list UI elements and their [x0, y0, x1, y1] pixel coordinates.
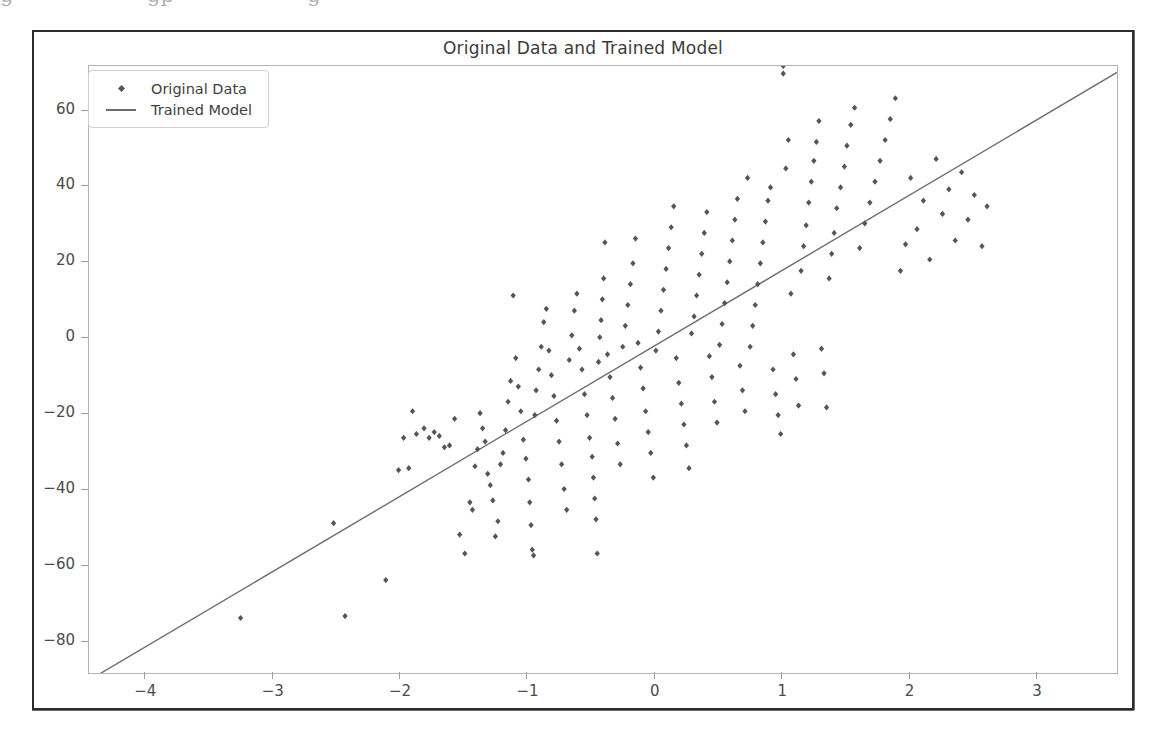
- scatter-point: [755, 281, 760, 287]
- x-tick-label: 1: [760, 682, 804, 700]
- y-tick-label: 40: [20, 175, 75, 193]
- scatter-point: [539, 344, 544, 350]
- scatter-point: [541, 319, 546, 325]
- scatter-point: [633, 236, 638, 242]
- scatter-point: [546, 347, 551, 353]
- scatter-point: [872, 179, 877, 185]
- scatter-point: [600, 296, 605, 302]
- x-tick-label: 3: [1015, 682, 1059, 700]
- scatter-point: [562, 486, 567, 492]
- scatter-point: [933, 156, 938, 162]
- scatter-point: [488, 482, 493, 488]
- scatter-point: [842, 163, 847, 169]
- scatter-point: [674, 355, 679, 361]
- scatter-point: [742, 408, 747, 414]
- scatter-point: [656, 328, 661, 334]
- y-tick-mark: [81, 641, 88, 642]
- scatter-points-layer: [89, 66, 1117, 673]
- y-tick-label: 20: [20, 251, 75, 269]
- scatter-point: [814, 139, 819, 145]
- scatter-point: [593, 516, 598, 522]
- scatter-point: [781, 70, 786, 76]
- scatter-point: [638, 365, 643, 371]
- scatter-point: [921, 198, 926, 204]
- scatter-point: [498, 461, 503, 467]
- scatter-point: [773, 391, 778, 397]
- scatter-point: [544, 306, 549, 312]
- scatter-point: [888, 116, 893, 122]
- scatter-point: [826, 275, 831, 281]
- scatter-point: [707, 353, 712, 359]
- scatter-point: [730, 237, 735, 243]
- scatter-point: [569, 332, 574, 338]
- figure-frame: Original Data and Trained Model −4−3−2−1…: [32, 30, 1134, 710]
- x-tick-mark: [399, 672, 400, 679]
- scatter-point: [612, 416, 617, 422]
- scatter-point: [691, 313, 696, 319]
- scatter-point: [768, 184, 773, 190]
- scatter-point: [709, 374, 714, 380]
- scatter-point: [536, 366, 541, 372]
- scatter-point: [712, 399, 717, 405]
- scatter-point: [485, 471, 490, 477]
- scatter-point: [679, 401, 684, 407]
- scatter-point: [832, 230, 837, 236]
- scatter-point: [526, 476, 531, 482]
- scatter-point: [447, 442, 452, 448]
- legend-label-original-data: Original Data: [151, 81, 247, 97]
- scatter-point: [765, 198, 770, 204]
- scatter-point: [556, 438, 561, 444]
- scatter-point: [607, 374, 612, 380]
- scatter-point: [735, 196, 740, 202]
- scatter-point: [714, 420, 719, 426]
- scatter-point: [597, 334, 602, 340]
- scatter-point: [862, 220, 867, 226]
- x-tick-label: −1: [505, 682, 549, 700]
- scatter-point: [669, 224, 674, 230]
- scatter-point: [551, 393, 556, 399]
- scatter-point: [946, 186, 951, 192]
- scatter-point: [238, 615, 243, 621]
- legend-item-trained-model: Trained Model: [99, 99, 252, 120]
- legend-label-trained-model: Trained Model: [151, 102, 252, 118]
- scatter-point: [513, 355, 518, 361]
- scatter-point: [591, 475, 596, 481]
- scatter-point: [658, 308, 663, 314]
- scatter-point: [630, 260, 635, 266]
- scatter-point: [432, 429, 437, 435]
- scatter-point: [602, 239, 607, 245]
- scatter-point: [483, 438, 488, 444]
- y-tick-mark: [81, 185, 88, 186]
- scatter-point: [605, 351, 610, 357]
- scatter-point: [549, 372, 554, 378]
- scatter-point: [898, 268, 903, 274]
- scatter-point: [801, 243, 806, 249]
- scatter-point: [844, 143, 849, 149]
- scatter-point: [511, 292, 516, 298]
- scatter-point: [592, 495, 597, 501]
- scatter-point: [623, 323, 628, 329]
- y-tick-mark: [81, 261, 88, 262]
- legend-item-original-data: Original Data: [99, 78, 252, 99]
- x-tick-label: −4: [123, 682, 167, 700]
- scatter-point: [493, 533, 498, 539]
- scatter-point: [531, 552, 536, 558]
- scatter-point: [984, 203, 989, 209]
- scatter-point: [532, 412, 537, 418]
- scatter-point: [852, 105, 857, 111]
- scatter-point: [480, 425, 485, 431]
- scatter-point: [615, 440, 620, 446]
- scatter-point: [574, 291, 579, 297]
- legend-marker-icon: [99, 86, 143, 91]
- scatter-point: [595, 550, 600, 556]
- scatter-point: [625, 302, 630, 308]
- scatter-point: [661, 287, 666, 293]
- scatter-point: [824, 404, 829, 410]
- scatter-point: [533, 387, 538, 393]
- scatter-point: [979, 243, 984, 249]
- scatter-point: [753, 302, 758, 308]
- x-tick-label: −3: [251, 682, 295, 700]
- scatter-point: [747, 344, 752, 350]
- scatter-point: [503, 427, 508, 433]
- scatter-point: [719, 321, 724, 327]
